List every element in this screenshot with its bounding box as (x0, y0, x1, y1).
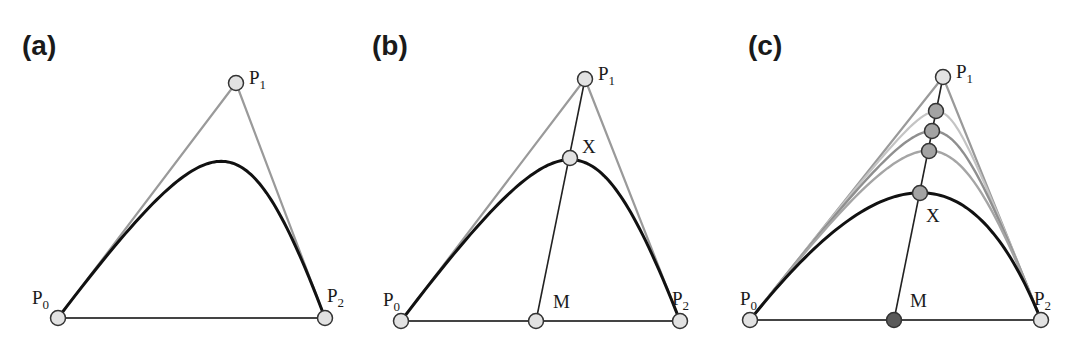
point-marker-p0 (51, 311, 66, 326)
panel-c: (c)P0P1P2XM (740, 30, 1051, 328)
point-label-p0: P0 (740, 288, 757, 313)
rational-bezier-figure: (a)P0P1P2 (b)P0P1P2XM (c)P0P1P2XM (0, 0, 1074, 343)
point-label-m: M (910, 290, 927, 311)
point-marker-p2 (318, 311, 333, 326)
point-marker-x (563, 151, 578, 166)
point-marker-p0 (394, 314, 409, 329)
point-label-x: X (582, 136, 596, 157)
point-marker-p0 (743, 313, 758, 328)
control-polygon (58, 83, 325, 318)
control-polygon (401, 79, 680, 321)
point-label-p0: P0 (383, 289, 400, 314)
point-marker-x1 (929, 104, 944, 119)
bezier-curve-w2 (58, 161, 325, 318)
bezier-curve-w2_3 (750, 151, 1041, 320)
point-marker-x3 (922, 144, 937, 159)
point-label-p1: P1 (598, 63, 615, 88)
point-marker-x (913, 186, 928, 201)
point-marker-m (529, 314, 544, 329)
panel-label-b: (b) (372, 30, 408, 61)
point-marker-p1 (578, 72, 593, 87)
point-marker-p1 (229, 76, 244, 91)
point-label-p2: P2 (327, 285, 344, 310)
panel-b: (b)P0P1P2XM (372, 30, 689, 329)
point-marker-p2 (673, 314, 688, 329)
point-label-m: M (553, 291, 570, 312)
point-marker-p1 (936, 70, 951, 85)
median-line (536, 79, 585, 321)
panel-a: (a)P0P1P2 (22, 30, 344, 326)
point-marker-m (887, 313, 902, 328)
point-label-p0: P0 (32, 287, 49, 312)
control-polygon (750, 77, 1041, 320)
bezier-curve-w3_5 (750, 131, 1041, 320)
panel-label-c: (c) (748, 30, 782, 61)
point-marker-p2 (1034, 313, 1049, 328)
point-label-p1: P1 (249, 67, 266, 92)
point-label-x: X (926, 205, 940, 226)
point-marker-x2 (925, 124, 940, 139)
point-label-p1: P1 (956, 61, 973, 86)
panel-label-a: (a) (22, 30, 56, 61)
